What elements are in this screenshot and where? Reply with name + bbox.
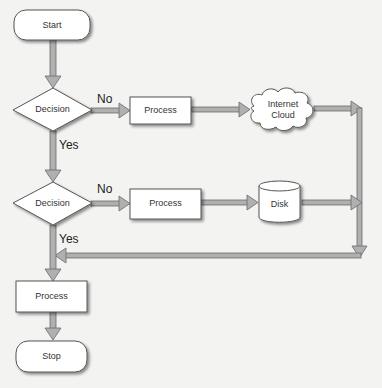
arrow-decision2-to-process2: [91, 196, 130, 211]
edge-label-d2-no: No: [97, 182, 112, 196]
cloud-node[interactable]: [251, 88, 313, 131]
process1-node[interactable]: [130, 97, 191, 124]
process3-node[interactable]: [16, 281, 87, 312]
decision1-node[interactable]: [13, 88, 92, 131]
stop-node[interactable]: [16, 341, 87, 372]
arrow-process3-to-stop: [45, 312, 61, 340]
arrow-cloud-to-right: [314, 101, 362, 116]
edge-label-d2-yes: Yes: [59, 232, 79, 246]
arrow-process1-to-cloud: [191, 102, 250, 117]
arrow-process2-to-disk: [201, 195, 258, 210]
arrow-return-left: [55, 248, 361, 263]
edge-label-d1-no: No: [97, 92, 112, 106]
arrow-start-to-decision1: [45, 40, 61, 88]
arrow-disk-to-right: [302, 195, 362, 210]
decision2-node[interactable]: [13, 182, 92, 225]
flowchart-canvas: Start Decision Process Internet Cloud De…: [0, 0, 382, 388]
arrow-right-bus-down: [352, 108, 367, 258]
edge-label-d1-yes: Yes: [59, 138, 79, 152]
process2-node[interactable]: [130, 189, 201, 219]
start-node[interactable]: [14, 10, 90, 40]
flowchart-graphics: [0, 0, 382, 388]
disk-node[interactable]: [259, 181, 300, 222]
